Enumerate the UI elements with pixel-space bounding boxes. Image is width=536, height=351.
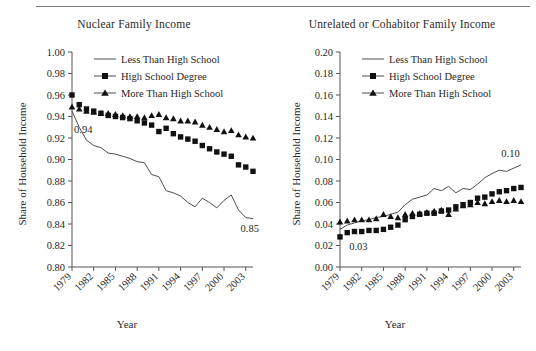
data-point-square	[185, 136, 190, 141]
data-point-triangle	[344, 217, 351, 223]
legend-label: More Than High School	[121, 88, 223, 99]
y-tick-label: 0.82	[47, 240, 65, 251]
x-tick-label: 1997	[181, 271, 204, 294]
data-point-triangle	[214, 126, 221, 132]
data-point-triangle	[148, 112, 155, 118]
data-point-square	[221, 151, 226, 156]
x-tick-label: 1988	[116, 271, 139, 294]
data-point-square	[489, 191, 494, 196]
data-point-square	[337, 234, 342, 239]
y-tick-label: 0.92	[47, 133, 65, 144]
legend-entry[interactable]: Less Than High School	[94, 54, 220, 65]
x-tick-label: 2000	[203, 271, 226, 294]
y-tick-label: 0.90	[47, 154, 65, 165]
data-point-triangle	[489, 198, 496, 204]
legend-label: Less Than High School	[121, 54, 220, 65]
data-annotation: 0.85	[241, 223, 259, 234]
y-tick-label: 0.12	[315, 133, 333, 144]
data-point-square	[250, 169, 255, 174]
plot-area-left: 1.000.980.960.940.920.900.880.860.840.82…	[0, 0, 268, 351]
y-tick-label: 0.06	[315, 197, 333, 208]
plot-area-right: 0.200.180.160.140.120.100.080.060.040.02…	[268, 0, 536, 351]
y-tick-label: 0.04	[315, 219, 334, 230]
data-point-square	[345, 230, 350, 235]
data-point-square	[395, 222, 400, 227]
x-tick-label: 1979	[319, 271, 342, 294]
data-point-triangle	[250, 135, 257, 141]
x-tick-label: 1979	[51, 271, 74, 294]
data-point-square	[69, 92, 74, 97]
series-high-school-degree	[337, 185, 523, 240]
y-tick-label: 0.96	[47, 90, 65, 101]
data-point-square	[504, 188, 509, 193]
data-point-triangle	[170, 115, 177, 121]
data-point-triangle	[185, 118, 192, 124]
data-point-square	[359, 229, 364, 234]
data-point-triangle	[242, 134, 249, 140]
data-point-triangle	[358, 216, 365, 222]
legend-label: Less Than High School	[389, 54, 488, 65]
data-point-square	[200, 143, 205, 148]
data-point-square	[149, 122, 154, 127]
data-point-triangle	[380, 211, 387, 217]
data-point-triangle	[409, 210, 416, 216]
data-point-triangle	[134, 113, 141, 119]
data-point-square	[192, 139, 197, 144]
y-tick-label: 0.84	[47, 219, 66, 230]
series-more-than-high-school	[69, 104, 257, 141]
chart-panel-unrelated-cohabitor: Unrelated or Cohabitor Family Income Sha…	[268, 0, 536, 351]
data-point-square	[178, 134, 183, 139]
data-point-square	[171, 131, 176, 136]
data-annotation: 0.94	[74, 124, 93, 135]
x-tick-label: 1994	[159, 270, 182, 293]
legend-entry[interactable]: High School Degree	[362, 71, 475, 82]
data-annotation: 0.10	[501, 148, 519, 159]
data-point-triangle	[496, 197, 503, 203]
data-point-triangle	[206, 124, 213, 130]
series-less-than-high-school	[72, 111, 253, 219]
data-point-square	[142, 120, 147, 125]
y-tick-label: 1.00	[47, 47, 65, 58]
y-tick-label: 0.94	[47, 111, 66, 122]
data-point-square	[374, 228, 379, 233]
y-tick-label: 0.86	[47, 197, 65, 208]
data-point-triangle	[156, 111, 163, 117]
data-point-triangle	[69, 104, 76, 110]
data-point-triangle	[351, 216, 358, 222]
legend-entry[interactable]: More Than High School	[94, 88, 223, 99]
data-point-square	[214, 149, 219, 154]
legend-entry[interactable]: More Than High School	[362, 88, 491, 99]
y-tick-label: 0.02	[315, 240, 333, 251]
y-tick-label: 0.18	[315, 68, 333, 79]
data-point-triangle	[402, 211, 409, 217]
legend-swatch-square	[102, 73, 108, 79]
y-tick-label: 0.88	[47, 176, 65, 187]
y-tick-label: 0.80	[47, 262, 65, 273]
data-point-triangle	[221, 128, 228, 134]
x-tick-label: 1991	[406, 271, 429, 294]
x-tick-label: 1988	[384, 271, 407, 294]
y-tick-label: 0.16	[315, 90, 333, 101]
legend-entry[interactable]: Less Than High School	[362, 54, 488, 65]
x-tick-label: 1982	[341, 271, 364, 294]
x-tick-label: 1997	[449, 271, 472, 294]
data-point-triangle	[518, 198, 525, 204]
data-point-triangle	[482, 200, 489, 206]
axis-lines	[72, 52, 253, 267]
data-point-square	[482, 194, 487, 199]
x-tick-label: 2000	[471, 271, 494, 294]
data-point-square	[236, 162, 241, 167]
figure-container: Nuclear Family Income Share of Household…	[0, 0, 536, 351]
data-point-triangle	[395, 214, 402, 220]
data-point-triangle	[235, 131, 242, 137]
series-polyline	[72, 111, 253, 219]
data-point-square	[207, 146, 212, 151]
data-point-square	[366, 228, 371, 233]
data-point-square	[352, 229, 357, 234]
legend-label: More Than High School	[389, 88, 491, 99]
axis-lines	[340, 52, 521, 267]
legend-entry[interactable]: High School Degree	[94, 71, 207, 82]
y-tick-label: 0.14	[315, 111, 334, 122]
y-tick-label: 0.00	[315, 262, 333, 273]
x-tick-label: 1982	[73, 271, 96, 294]
